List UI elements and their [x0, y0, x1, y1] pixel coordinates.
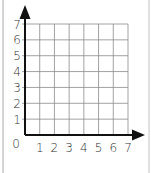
y-tick-label: 6 — [13, 33, 21, 47]
x-tick-labels: 1234567 — [36, 141, 132, 155]
x-axis-arrow-icon — [132, 130, 145, 141]
axes — [20, 5, 146, 141]
x-tick-label: 2 — [51, 141, 59, 155]
y-tick-label: 4 — [13, 65, 21, 79]
x-tick-label: 4 — [80, 141, 88, 155]
y-tick-label: 3 — [13, 81, 21, 95]
y-tick-label: 5 — [13, 49, 21, 63]
y-tick-label: 7 — [13, 18, 21, 32]
x-tick-label: 6 — [109, 141, 117, 155]
y-tick-label: 1 — [13, 113, 21, 127]
coordinate-grid-chart: 1234567 1234567 0 — [0, 0, 151, 173]
x-tick-label: 5 — [95, 141, 103, 155]
y-tick-label: 2 — [13, 97, 21, 111]
x-tick-label: 7 — [124, 141, 132, 155]
x-tick-label: 3 — [65, 141, 73, 155]
x-tick-label: 1 — [36, 141, 44, 155]
grid-lines — [22, 24, 128, 135]
origin-label: 0 — [12, 137, 20, 151]
y-tick-labels: 1234567 — [13, 18, 21, 127]
y-axis-arrow-icon — [20, 5, 31, 19]
